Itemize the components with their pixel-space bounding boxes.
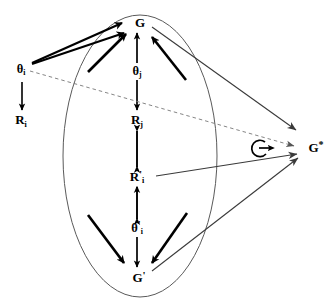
edge-thetai-to-g-upper	[32, 23, 122, 63]
edge-r-prime-i-to-g-star	[156, 154, 297, 176]
edge-inner-left-to-g-bottom	[88, 215, 124, 263]
edge-inner-right-to-g	[152, 37, 186, 80]
diagram-canvas: G θj Rj R'i θ'i G' θi Ri G* G	[0, 0, 336, 307]
edge-inner-right-to-g-bottom	[152, 213, 187, 263]
edge-g-bottom-to-g-star	[152, 158, 298, 271]
diagram-svg	[0, 0, 336, 307]
edge-theta-i-to-g-star-dashed	[30, 71, 294, 146]
edge-g-top-to-g-star	[152, 27, 296, 130]
